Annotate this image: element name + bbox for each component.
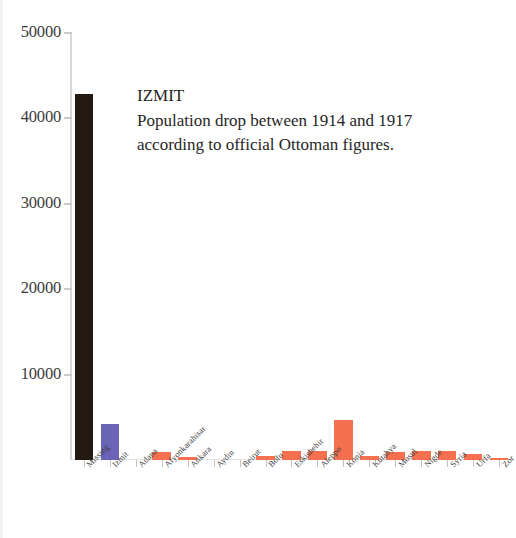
bar-missing[interactable] <box>75 94 94 460</box>
y-axis-tick-label: 40000 <box>3 109 61 126</box>
y-axis-tick-label: 20000 <box>3 280 61 297</box>
y-axis-tick-mark <box>64 288 72 290</box>
annotation-title: IZMIT <box>137 84 497 109</box>
y-axis-tick-label: 50000 <box>3 24 61 41</box>
y-axis-tick-label: 10000 <box>3 366 61 383</box>
bar-slot <box>101 33 120 460</box>
y-axis-tick-mark <box>64 117 72 119</box>
y-axis-tick-label: 30000 <box>3 195 61 212</box>
y-axis-tick-mark <box>64 32 72 34</box>
y-axis-tick-mark <box>64 203 72 205</box>
annotation-line-2: according to official Ottoman figures. <box>137 133 497 158</box>
y-axis-labels: 1000020000300004000050000 <box>0 0 61 538</box>
annotation-text-block: IZMIT Population drop between 1914 and 1… <box>137 84 497 158</box>
bar-slot <box>75 33 94 460</box>
y-axis-tick-mark <box>64 374 72 376</box>
x-axis-labels: MissingIzmitAdanaAfyonkarahisarAnkaraAyd… <box>71 462 512 538</box>
bar-chart-figure: 1000020000300004000050000 MissingIzmitAd… <box>0 0 516 538</box>
annotation-line-1: Population drop between 1914 and 1917 <box>137 109 497 134</box>
